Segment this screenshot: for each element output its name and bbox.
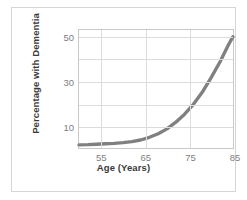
gridline-vertical: [101, 30, 102, 148]
y-tick-label: 50: [63, 31, 74, 42]
gridline-vertical: [146, 30, 147, 148]
chart-figure: Percentage with Dementia 10305055657585 …: [0, 0, 247, 200]
x-axis-title: Age (Years): [0, 162, 247, 173]
plot-area: 10305055657585: [78, 29, 234, 149]
y-tick-label: 10: [63, 122, 74, 133]
y-axis-title: Percentage with Dementia: [30, 4, 41, 144]
gridline-vertical: [190, 30, 191, 148]
y-tick-label: 30: [63, 77, 74, 88]
